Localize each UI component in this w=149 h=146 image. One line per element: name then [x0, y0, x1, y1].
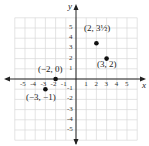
y-tick-label: -5 — [67, 126, 73, 133]
x-tick-label: -4 — [30, 81, 36, 88]
x-tick-label: -5 — [20, 81, 26, 88]
point-label-neg2-0: (−2, 0) — [38, 65, 63, 74]
point-label-3-2: (3, 2) — [97, 60, 117, 69]
y-axis — [74, 4, 79, 145]
x-tick-label: -1 — [61, 81, 67, 88]
arrow-down-icon — [74, 139, 79, 145]
y-tick-label: 3 — [69, 44, 73, 51]
arrow-up-icon — [74, 4, 79, 10]
y-tick-label: 1 — [69, 65, 73, 72]
y-tick-label: -1 — [67, 85, 73, 92]
x-axis-label: x — [142, 81, 146, 90]
y-tick-label: -2 — [67, 95, 73, 102]
x-tick-label: 1 — [84, 81, 88, 88]
y-tick-label: -3 — [67, 106, 73, 113]
y-tick-label: 2 — [69, 55, 73, 62]
x-tick-label: 2 — [94, 81, 98, 88]
x-tick-label: 5 — [125, 81, 129, 88]
point-label-2-3half: (2, 3½) — [84, 24, 110, 33]
arrow-left-icon — [4, 77, 10, 82]
x-tick-label: -2 — [51, 81, 57, 88]
x-tick-label: 3 — [105, 81, 109, 88]
point-label-neg3-neg1: (−3, −1) — [26, 93, 56, 102]
coordinate-plane — [0, 0, 149, 146]
data-point — [94, 41, 99, 46]
y-tick-label: 4 — [69, 34, 73, 41]
x-tick-label: 4 — [115, 81, 119, 88]
y-axis-label: y — [68, 2, 72, 11]
y-tick-label: -4 — [67, 116, 73, 123]
x-tick-label: -3 — [40, 81, 46, 88]
y-tick-label: 5 — [69, 24, 73, 31]
